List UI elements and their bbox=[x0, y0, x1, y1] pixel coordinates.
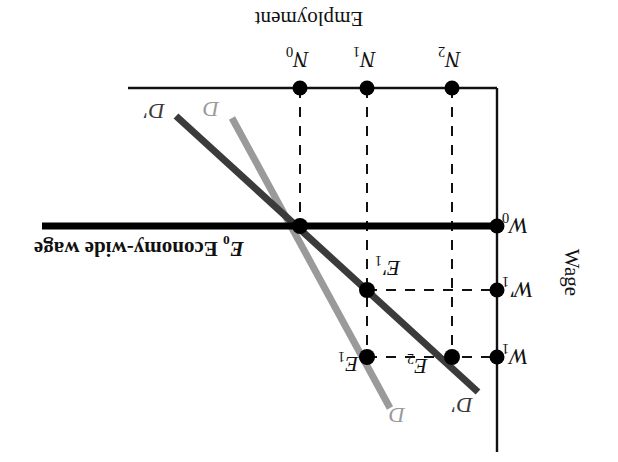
equilibrium-label-e2: E2 bbox=[407, 352, 428, 377]
tick-label-n1-sub: 1 bbox=[353, 44, 360, 60]
equilibrium-label-e1-sub: 1 bbox=[338, 349, 345, 365]
tick-label-n2-base: N bbox=[445, 47, 460, 72]
equilibrium-label-e1: E1 bbox=[338, 350, 359, 375]
equilibrium-label-e1-prime: E′1 bbox=[375, 254, 400, 279]
equilibrium-label-e2-base: E bbox=[414, 354, 427, 379]
tick-label-w1-base: W bbox=[509, 344, 528, 369]
employment-axis-title: Employment bbox=[236, 8, 382, 29]
tick-label-w1-prime-sub: 1 bbox=[502, 274, 509, 290]
wage-axis-title: Wage bbox=[561, 238, 582, 308]
tick-label-w1-prime-base: W bbox=[514, 277, 533, 302]
equilibrium-label-e1-prime-sub: 1 bbox=[375, 253, 382, 269]
equilibrium-label-e1-prime-mark: ′ bbox=[382, 256, 387, 281]
economy-wide-wage-text: Economy-wide wage bbox=[34, 237, 218, 261]
equilibrium-label-e2-sub: 2 bbox=[407, 351, 414, 367]
tick-label-n1-base: N bbox=[360, 47, 375, 72]
tick-label-w1: W1 bbox=[502, 341, 529, 368]
tick-label-w0: W0 bbox=[502, 210, 529, 237]
point-e2 bbox=[444, 349, 460, 365]
point-e1 bbox=[359, 349, 375, 365]
labor-demand-diagram: Employment Wage N0 N1 N2 W0 W′1 W1 E′1 E… bbox=[0, 0, 618, 462]
economy-wide-wage-annotation: E0 Economy-wide wage bbox=[34, 234, 244, 259]
tick-label-n0-base: N bbox=[293, 47, 308, 72]
tick-label-w1-prime: W′1 bbox=[502, 274, 534, 301]
tick-label-n1: N1 bbox=[353, 44, 376, 71]
curve-label-d-prime-top: D′ bbox=[144, 100, 165, 122]
point-e1-prime bbox=[359, 282, 375, 298]
economy-wide-wage-prefix: E bbox=[230, 237, 244, 261]
tick-label-n2: N2 bbox=[438, 44, 461, 71]
point-n0 bbox=[293, 81, 308, 96]
economy-wide-wage-spacer bbox=[218, 237, 223, 261]
tick-label-n0-sub: 0 bbox=[286, 44, 293, 60]
curve-label-d-top: D bbox=[203, 98, 219, 120]
tick-label-n0: N0 bbox=[286, 44, 309, 71]
tick-label-w0-sub: 0 bbox=[502, 210, 509, 226]
equilibrium-label-e1-base: E bbox=[345, 352, 358, 377]
point-n2 bbox=[445, 81, 460, 96]
curve-label-d-prime-bottom: D′ bbox=[452, 394, 473, 416]
tick-label-n2-sub: 2 bbox=[438, 44, 445, 60]
tick-label-w1-prime-mark: ′ bbox=[509, 277, 514, 302]
curve-label-d-bottom: D bbox=[389, 404, 405, 426]
economy-wide-wage-prefix-sub: 0 bbox=[223, 233, 230, 248]
equilibrium-label-e1-prime-base: E bbox=[387, 256, 400, 281]
tick-label-w1-sub: 1 bbox=[502, 341, 509, 357]
point-e0 bbox=[292, 218, 308, 234]
point-n1 bbox=[360, 81, 375, 96]
tick-label-w0-base: W bbox=[509, 213, 528, 238]
